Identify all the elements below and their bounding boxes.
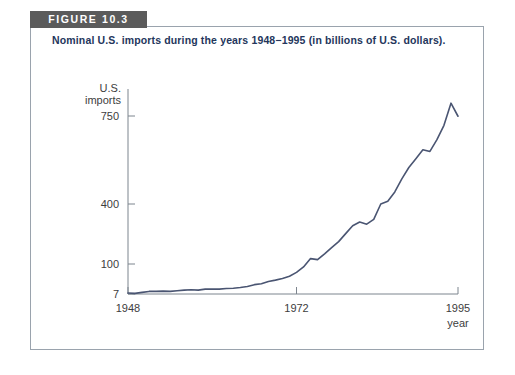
- x-tick-labels: 194819721995: [116, 302, 470, 314]
- x-axis-title: year: [447, 317, 469, 329]
- x-tick-label: 1972: [284, 302, 308, 314]
- y-tick-label: 7: [113, 288, 119, 300]
- imports-data-line: [128, 103, 458, 293]
- x-tick-label: 1948: [116, 302, 140, 314]
- y-tick-label: 400: [101, 198, 119, 210]
- y-tick-label: 750: [101, 110, 119, 122]
- y-tick-labels: 7100400750: [101, 110, 119, 300]
- chart-axes: [128, 89, 458, 294]
- line-chart: 7100400750 194819721995 U.S. imports yea…: [30, 26, 484, 350]
- y-axis-title-line2: imports: [85, 94, 122, 106]
- y-axis-title-line1: U.S.: [100, 82, 121, 94]
- y-tick-label: 100: [101, 258, 119, 270]
- figure-container: FIGURE 10.3 Nominal U.S. imports during …: [0, 0, 515, 375]
- y-tick-marks: [128, 116, 135, 294]
- x-tick-label: 1995: [446, 302, 470, 314]
